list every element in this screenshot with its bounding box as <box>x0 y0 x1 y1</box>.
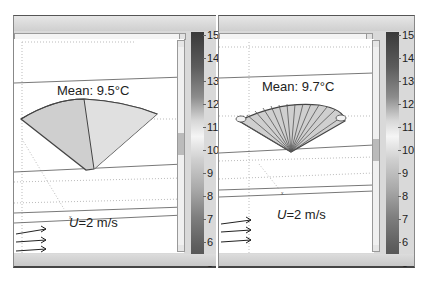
simulation-canvas: x Mean: 9.5°C U=2 m/s <box>14 39 184 253</box>
tick-label: 7 <box>402 214 408 225</box>
tick-label: 10 <box>402 145 414 156</box>
colorbar-tick-labels: 15 14 13 12 11 10 9 8 7 6 5 <box>402 32 422 272</box>
mean-temperature-label: Mean: 9.7°C <box>262 79 334 94</box>
mean-temperature-label: Mean: 9.5°C <box>57 83 129 98</box>
temperature-colorbar <box>386 32 399 264</box>
scroll-arrow-icon[interactable] <box>178 245 184 251</box>
velocity-value: =2 m/s <box>286 207 325 222</box>
temperature-colorbar <box>191 32 204 264</box>
tick-label: 12 <box>402 99 414 110</box>
vertical-scrollbar[interactable] <box>372 40 380 252</box>
velocity-label: U=2 m/s <box>277 207 326 222</box>
tick-label: 8 <box>207 191 213 202</box>
tick-label: 6 <box>402 237 408 248</box>
tick-label: 7 <box>207 214 213 225</box>
scroll-arrow-icon[interactable] <box>373 245 379 251</box>
panel-status-bar <box>219 254 414 266</box>
svg-text:x: x <box>281 190 284 196</box>
arrow-right-icon <box>221 217 251 243</box>
simulation-canvas: x <box>219 39 374 253</box>
tick-label: 11 <box>207 122 218 133</box>
scroll-arrow-icon[interactable] <box>373 41 379 47</box>
tick-label: 14 <box>402 53 414 64</box>
right-simulation-panel: x <box>218 15 415 268</box>
left-simulation-panel: x Mean: 9.5°C U=2 m/s 15 14 13 12 11 10 … <box>13 15 216 268</box>
arrow-right-icon <box>16 226 46 252</box>
panel-toolbar <box>219 16 414 31</box>
scroll-arrow-icon[interactable] <box>178 41 184 47</box>
velocity-value: =2 m/s <box>78 215 117 230</box>
tick-label: 11 <box>402 122 413 133</box>
vertical-scrollbar[interactable] <box>177 40 185 252</box>
velocity-symbol: U <box>277 207 286 222</box>
tick-label: 6 <box>207 237 213 248</box>
tick-label: 13 <box>402 76 414 87</box>
tick-label: 9 <box>207 168 213 179</box>
panel-status-bar <box>14 254 216 266</box>
scrollbar-thumb[interactable] <box>373 139 379 161</box>
scrollbar-thumb[interactable] <box>178 133 184 155</box>
tick-label: 15 <box>402 30 414 41</box>
velocity-label: U=2 m/s <box>69 215 118 230</box>
tick-label: 9 <box>402 168 408 179</box>
velocity-symbol: U <box>69 215 78 230</box>
tick-label: 8 <box>402 191 408 202</box>
panel-toolbar <box>14 16 216 31</box>
